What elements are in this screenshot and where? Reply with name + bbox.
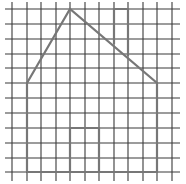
house-outline (27, 9, 157, 172)
house-shape (27, 9, 157, 172)
grid-house-diagram (0, 0, 186, 184)
